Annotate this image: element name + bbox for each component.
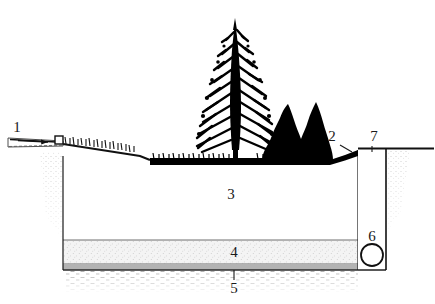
right-excavation-wall-texture <box>386 150 410 232</box>
natural-subgrade-texture <box>66 270 358 292</box>
small-riser-block <box>55 136 63 144</box>
diagram-canvas: 1 2 3 4 5 6 7 <box>0 0 435 304</box>
callout-6: 6 <box>368 228 376 244</box>
basal-liner-layer <box>63 264 358 270</box>
callout-1: 1 <box>13 119 21 135</box>
granular-drainage-layer <box>63 240 358 264</box>
left-excavation-wall-texture <box>40 152 63 240</box>
cross-section-figure: 1 2 3 4 5 6 7 <box>0 0 435 304</box>
collection-pipe-section <box>361 244 383 266</box>
callout-2: 2 <box>328 128 336 144</box>
callout-5: 5 <box>230 280 238 296</box>
callout-7: 7 <box>370 128 378 144</box>
callout-4: 4 <box>230 244 238 260</box>
conifer-tree-silhouette <box>197 18 274 158</box>
callout-3: 3 <box>227 186 235 202</box>
